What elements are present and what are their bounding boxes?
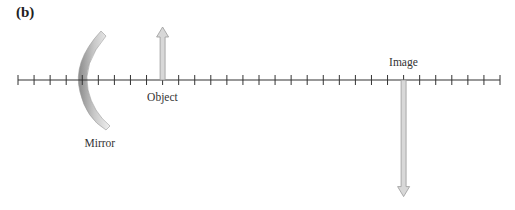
image-label: Image	[389, 56, 418, 68]
object-arrow	[157, 27, 169, 80]
optics-diagram	[0, 0, 515, 210]
object-label: Object	[147, 91, 178, 103]
mirror-label: Mirror	[85, 137, 116, 149]
image-arrow	[398, 80, 410, 197]
